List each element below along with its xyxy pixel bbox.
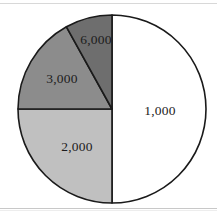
bottom-divider-rule-secondary [0, 210, 217, 211]
pie-slices-group [18, 15, 206, 203]
pie-slice-label-6000: 6,000 [80, 32, 111, 47]
pie-chart: 1,0002,0003,0006,000 [0, 0, 217, 220]
figure-root: 1,0002,0003,0006,000 [0, 0, 217, 220]
pie-slice-label-2000: 2,000 [61, 139, 92, 154]
pie-slice-2000[interactable] [18, 109, 112, 203]
pie-slice-label-3000: 3,000 [46, 71, 77, 86]
pie-slice-label-1000: 1,000 [144, 103, 175, 118]
bottom-divider-rule [0, 208, 217, 209]
